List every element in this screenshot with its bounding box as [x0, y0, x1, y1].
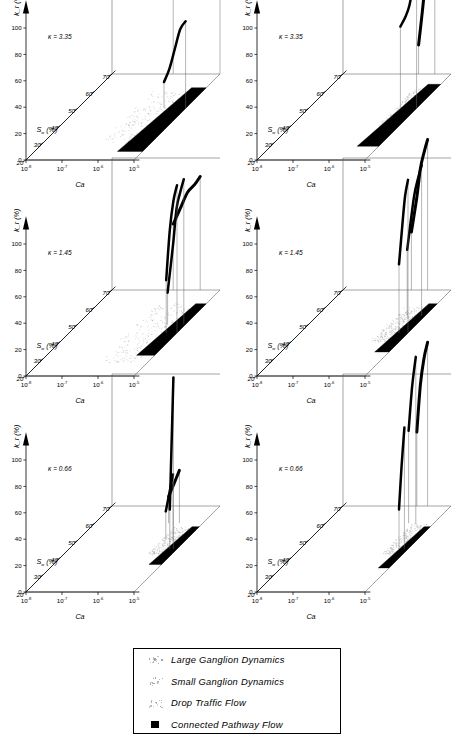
kr-tick-label: 20	[246, 346, 253, 353]
sw-tick-label: 20	[16, 591, 24, 598]
kr-tick-label: 80	[15, 483, 22, 490]
ca-tick-label: 10-6	[324, 596, 335, 604]
kr-tick-label: 80	[15, 267, 22, 274]
kr-tick-label: 100	[242, 24, 253, 31]
kr-tick-label: 40	[15, 535, 22, 542]
sw-tick-label: 30	[265, 357, 272, 364]
kr-ridge-curve	[400, 0, 416, 27]
ca-tick-label: 10-5	[129, 380, 140, 388]
ca-tick-label: 10-6	[324, 380, 335, 388]
legend-item: Large Ganglion Dynamics	[134, 649, 340, 671]
sw-tick-label: 60	[85, 522, 92, 529]
kappa-annotation: κ = 0.66	[279, 465, 303, 472]
kr-axis-label: k_r (%)	[12, 209, 21, 232]
kr-tick-label: 20	[15, 346, 22, 353]
sw-tick-label: 50	[299, 107, 306, 114]
connected-pathway-band	[357, 84, 441, 146]
kr-ridge-curve	[399, 428, 404, 510]
sw-tick-label: 30	[34, 357, 41, 364]
ca-axis-label: Ca	[75, 180, 84, 189]
kr-axis-arrow	[254, 0, 260, 13]
kr-axis-label: k_r (%)	[243, 209, 252, 232]
legend-label: Connected Pathway Flow	[171, 719, 283, 730]
sw-axis-label: Sw (%)	[36, 557, 57, 567]
sw-tick-label: 30	[265, 573, 272, 580]
kr-axis-arrow	[23, 216, 29, 229]
kr-tick-label: 40	[15, 103, 22, 110]
ca-tick-label: 10-7	[288, 596, 299, 604]
base-plane	[257, 506, 451, 592]
legend-label: Small Ganglion Dynamics	[171, 676, 284, 687]
legend-label: Large Ganglion Dynamics	[171, 654, 285, 665]
sw-tick-label: 60	[316, 306, 323, 313]
kr-tick-label: 40	[246, 535, 253, 542]
ca-axis-label: Ca	[306, 180, 315, 189]
kr-tick-label: 20	[15, 562, 22, 569]
legend-box: Large Ganglion Dynamics Small Ganglion D…	[133, 648, 341, 734]
kr-tick-label: 100	[242, 456, 253, 463]
kappa-annotation: κ = 3.35	[48, 33, 72, 40]
sw-axis-label: Sw (%)	[36, 125, 57, 135]
sw-tick-label: 20	[16, 375, 24, 382]
kr-tick-label: 80	[246, 51, 253, 58]
sw-tick-label: 60	[85, 90, 92, 97]
kr-tick-label: 100	[11, 456, 22, 463]
ca-tick-label: 10-7	[57, 380, 68, 388]
sw-tick-label: 70	[334, 73, 341, 80]
base-plane	[26, 290, 220, 376]
kr-tick-label: 20	[246, 130, 253, 137]
kr-ridge-curve	[419, 0, 435, 45]
sw-tick-label: 70	[334, 289, 341, 296]
sw-axis-label: Sw (%)	[36, 341, 57, 351]
kr-tick-label: 20	[15, 130, 22, 137]
panel-bottom-right: 020406080100k_r (%)10-810-710-610-5Ca203…	[231, 432, 461, 647]
sw-tick-label: 30	[34, 141, 41, 148]
base-plane	[257, 74, 451, 160]
panel-bottom-left: 020406080100k_r (%)10-810-710-610-5Ca203…	[0, 432, 230, 647]
sw-tick-label: 50	[68, 539, 75, 546]
ca-axis-label: Ca	[75, 396, 84, 405]
kr-tick-label: 60	[15, 509, 22, 516]
sw-axis-label: Sw (%)	[267, 125, 288, 135]
kr-ridge-curve	[164, 21, 186, 82]
kr-tick-label: 40	[15, 319, 22, 326]
kr-axis-label: k_r (%)	[243, 425, 252, 448]
kappa-annotation: κ = 1.45	[48, 249, 72, 256]
ca-tick-label: 10-7	[288, 164, 299, 172]
kappa-annotation: κ = 0.66	[48, 465, 72, 472]
ca-axis-label: Ca	[306, 396, 315, 405]
kr-axis-label: k_r (%)	[12, 0, 21, 16]
sw-tick-label: 60	[316, 522, 323, 529]
sw-tick-label: 70	[103, 289, 110, 296]
kr-tick-label: 60	[15, 293, 22, 300]
kr-tick-label: 100	[11, 240, 22, 247]
panel-middle-right: 020406080100k_r (%)10-810-710-610-5Ca203…	[231, 216, 461, 431]
sw-tick-label: 70	[334, 505, 341, 512]
sw-axis-label: Sw (%)	[267, 341, 288, 351]
sw-tick-label: 50	[68, 323, 75, 330]
kr-axis-arrow	[254, 432, 260, 445]
kr-tick-label: 40	[246, 319, 253, 326]
sw-tick-label: 30	[265, 141, 272, 148]
kr-axis-arrow	[23, 432, 29, 445]
kr-tick-label: 80	[246, 483, 253, 490]
kappa-annotation: κ = 3.35	[279, 33, 303, 40]
sw-axis-label: Sw (%)	[267, 557, 288, 567]
sw-tick-label: 50	[68, 107, 75, 114]
ca-tick-label: 10-5	[129, 596, 140, 604]
sw-tick-label: 60	[85, 306, 92, 313]
ca-tick-label: 10-6	[93, 380, 104, 388]
faint-dots-icon	[148, 653, 164, 667]
connected-pathway-band	[137, 304, 207, 356]
kr-axis-arrow	[23, 0, 29, 13]
legend-item: Drop Traffic Flow	[134, 692, 340, 714]
kr-tick-label: 100	[11, 24, 22, 31]
ca-axis-label: Ca	[306, 612, 315, 621]
sw-tick-label: 70	[103, 73, 110, 80]
faint-dots-icon	[148, 696, 164, 710]
figure-page: 020406080100k_r (%)10-810-710-610-5Ca203…	[0, 0, 461, 740]
ca-tick-label: 10-5	[360, 380, 371, 388]
kr-tick-label: 80	[246, 267, 253, 274]
kr-tick-label: 80	[15, 51, 22, 58]
panel-middle-left: 020406080100k_r (%)10-810-710-610-5Ca203…	[0, 216, 230, 431]
